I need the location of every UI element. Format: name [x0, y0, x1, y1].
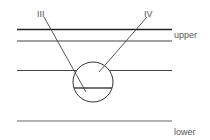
pointer-III-line — [44, 17, 86, 92]
diagram-canvas: III IV upper lower — [0, 0, 210, 140]
pointer-IV-line — [99, 17, 147, 72]
label-lower: lower — [174, 127, 196, 137]
label-IV: IV — [144, 9, 153, 19]
circle-shape — [73, 62, 113, 102]
label-III: III — [37, 9, 45, 19]
label-upper: upper — [174, 30, 197, 40]
